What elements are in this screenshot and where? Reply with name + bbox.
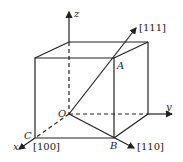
origin-label: O <box>58 108 66 119</box>
direction-111-label: [111] <box>139 22 166 33</box>
cube-diagram: z y x [111] [110] [100] A B C O <box>0 0 183 162</box>
point-b-label: B <box>109 140 117 151</box>
hidden-edges <box>35 42 148 138</box>
point-c-label: C <box>24 130 32 141</box>
x-axis-label: x <box>13 141 19 152</box>
cube-edges <box>35 42 148 138</box>
z-axis-label: z <box>73 8 80 19</box>
point-a-label: A <box>116 60 124 71</box>
direction-110-label: [110] <box>137 141 164 152</box>
direction-111-arrow <box>69 28 136 114</box>
direction-100-label: [100] <box>33 141 60 152</box>
y-axis-label: y <box>165 101 172 112</box>
